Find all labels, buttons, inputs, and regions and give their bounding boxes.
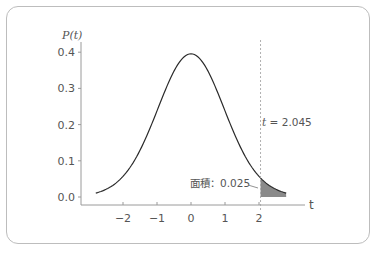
area-annotation: 面積：0.025 <box>190 177 250 189</box>
x-tick-label: 2 <box>256 212 263 225</box>
y-tick-label: 0.2 <box>58 119 76 132</box>
y-ticks: 0.00.10.20.30.4 <box>58 46 82 204</box>
y-tick-label: 0.0 <box>58 191 76 204</box>
y-tick-label: 0.3 <box>58 82 76 95</box>
y-axis-label: P(t) <box>61 29 82 42</box>
t-distribution-chart: 0.00.10.20.30.4 −2−1012 P(t) t t = 2.045… <box>0 0 375 253</box>
density-curve <box>96 54 286 193</box>
x-axis-label: t <box>309 198 314 212</box>
y-tick-label: 0.1 <box>58 155 76 168</box>
cutoff-label: t = 2.045 <box>262 116 312 128</box>
x-tick-label: −1 <box>149 212 165 225</box>
x-tick-label: 1 <box>222 212 229 225</box>
x-tick-label: 0 <box>188 212 195 225</box>
y-tick-label: 0.4 <box>58 46 76 59</box>
x-tick-label: −2 <box>115 212 131 225</box>
